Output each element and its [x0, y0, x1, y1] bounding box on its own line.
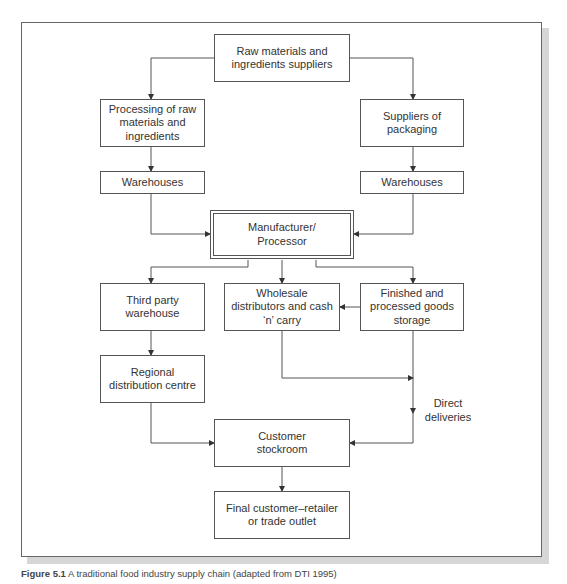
node-packaging-suppliers: Suppliers of packaging: [360, 99, 464, 147]
node-wholesale-distributors: Wholesale distributors and cash ‘n’ carr…: [224, 283, 340, 331]
node-warehouses-left: Warehouses: [100, 171, 205, 194]
node-label: Regional distribution centre: [104, 366, 201, 393]
figure-caption: Figure 5.1 A traditional food industry s…: [21, 568, 337, 579]
node-customer-stockroom: Customer stockroom: [214, 419, 350, 467]
node-label: Warehouses: [122, 176, 183, 190]
node-raw-materials-suppliers: Raw materials and ingredients suppliers: [214, 34, 350, 82]
node-warehouses-right: Warehouses: [360, 171, 464, 194]
caption-text: A traditional food industry supply chain…: [66, 568, 337, 579]
node-label: Third party warehouse: [118, 294, 188, 321]
figure-number: Figure 5.1: [21, 568, 66, 579]
node-processing-raw-materials: Processing of raw materials and ingredie…: [100, 99, 205, 147]
node-finished-goods-storage: Finished and processed goods storage: [360, 283, 464, 331]
node-third-party-warehouse: Third party warehouse: [100, 283, 205, 331]
edge-label-direct-deliveries: Direct deliveries: [420, 397, 476, 424]
node-label: Suppliers of packaging: [364, 110, 460, 137]
node-label: Final customer–retailer or trade outlet: [222, 502, 342, 529]
node-label: Wholesale distributors and cash ‘n’ carr…: [228, 287, 336, 328]
node-regional-distribution-centre: Regional distribution centre: [100, 355, 205, 403]
node-label: Raw materials and ingredients suppliers: [218, 45, 346, 72]
node-label: Processing of raw materials and ingredie…: [104, 103, 201, 144]
node-label: Manufacturer/ Processor: [242, 221, 322, 248]
node-final-customer: Final customer–retailer or trade outlet: [214, 491, 350, 539]
node-label: Warehouses: [381, 176, 442, 190]
node-label: Customer stockroom: [247, 430, 317, 457]
node-manufacturer-processor: Manufacturer/ Processor: [213, 213, 351, 256]
node-label: Finished and processed goods storage: [364, 287, 460, 328]
